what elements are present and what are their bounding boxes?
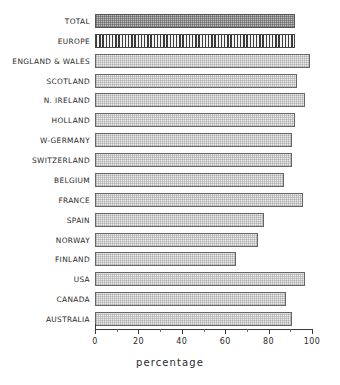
x-axis-tick-label: 80 xyxy=(263,337,274,346)
bar-row: N. IRELAND xyxy=(95,91,312,111)
bar-rows: TOTALEUROPEENGLAND & WALESSCOTLANDN. IRE… xyxy=(95,11,312,329)
bar-row: FRANCE xyxy=(95,190,312,210)
bar-category-label: W-GERMANY xyxy=(40,136,90,145)
bar-row: HOLLAND xyxy=(95,110,312,130)
bar-switzerland xyxy=(95,153,292,167)
bar-w-germany xyxy=(95,133,292,147)
bar-france xyxy=(95,193,303,207)
bar-usa xyxy=(95,272,305,286)
bar-row: W-GERMANY xyxy=(95,130,312,150)
bar-row: EUROPE xyxy=(95,31,312,51)
x-axis-tick-label: 20 xyxy=(133,337,144,346)
bar-row: BELGIUM xyxy=(95,170,312,190)
bar-category-label: USA xyxy=(74,275,90,284)
bar-australia xyxy=(95,312,292,326)
bar-norway xyxy=(95,233,258,247)
bar-scotland xyxy=(95,74,297,88)
bar-row: SWITZERLAND xyxy=(95,150,312,170)
bar-category-label: TOTAL xyxy=(65,16,90,25)
x-axis-ticks: 020406080100 xyxy=(95,329,312,343)
x-axis-title: percentage xyxy=(0,357,340,368)
x-axis-tick-label: 40 xyxy=(176,337,187,346)
bar-category-label: BELGIUM xyxy=(54,175,90,184)
bar-category-label: FINLAND xyxy=(55,255,90,264)
bar-row: CANADA xyxy=(95,289,312,309)
x-axis-major-tick xyxy=(138,329,139,334)
bar-category-label: AUSTRALIA xyxy=(46,315,90,324)
bar-row: SCOTLAND xyxy=(95,71,312,91)
bar-chart: TOTALEUROPEENGLAND & WALESSCOTLANDN. IRE… xyxy=(0,0,340,385)
bar-row: FINLAND xyxy=(95,250,312,270)
bar-spain xyxy=(95,213,264,227)
x-axis-tick-label: 0 xyxy=(92,337,98,346)
x-axis-major-tick xyxy=(269,329,270,334)
bar-category-label: CANADA xyxy=(56,295,90,304)
bar-row: AUSTRALIA xyxy=(95,309,312,329)
bar-category-label: ENGLAND & WALES xyxy=(12,56,90,65)
x-axis-major-tick xyxy=(225,329,226,334)
x-axis-major-tick xyxy=(95,329,96,334)
x-axis-minor-tick xyxy=(204,329,205,332)
bar-category-label: SCOTLAND xyxy=(46,76,90,85)
bar-belgium xyxy=(95,173,284,187)
bar-row: SPAIN xyxy=(95,210,312,230)
bar-total xyxy=(95,14,295,28)
x-axis-minor-tick xyxy=(290,329,291,332)
bar-canada xyxy=(95,292,286,306)
bar-finland xyxy=(95,252,236,266)
x-axis-major-tick xyxy=(182,329,183,334)
bar-category-label: NORWAY xyxy=(56,235,90,244)
bar-category-label: SWITZERLAND xyxy=(32,156,90,165)
x-axis-minor-tick xyxy=(247,329,248,332)
bar-row: NORWAY xyxy=(95,230,312,250)
bar-category-label: HOLLAND xyxy=(51,116,90,125)
bar-category-label: EUROPE xyxy=(58,36,90,45)
x-axis-tick-label: 60 xyxy=(220,337,231,346)
bar-holland xyxy=(95,113,295,127)
x-axis-tick-label: 100 xyxy=(304,337,320,346)
bar-category-label: SPAIN xyxy=(67,215,90,224)
bar-england-wales xyxy=(95,54,310,68)
bar-n-ireland xyxy=(95,93,305,107)
bar-row: ENGLAND & WALES xyxy=(95,51,312,71)
bar-europe xyxy=(95,34,295,48)
plot-area: TOTALEUROPEENGLAND & WALESSCOTLANDN. IRE… xyxy=(95,11,312,329)
bar-row: USA xyxy=(95,269,312,289)
x-axis-minor-tick xyxy=(117,329,118,332)
x-axis-minor-tick xyxy=(160,329,161,332)
bar-row: TOTAL xyxy=(95,11,312,31)
bar-category-label: FRANCE xyxy=(58,195,90,204)
bar-category-label: N. IRELAND xyxy=(44,96,90,105)
x-axis-major-tick xyxy=(312,329,313,334)
